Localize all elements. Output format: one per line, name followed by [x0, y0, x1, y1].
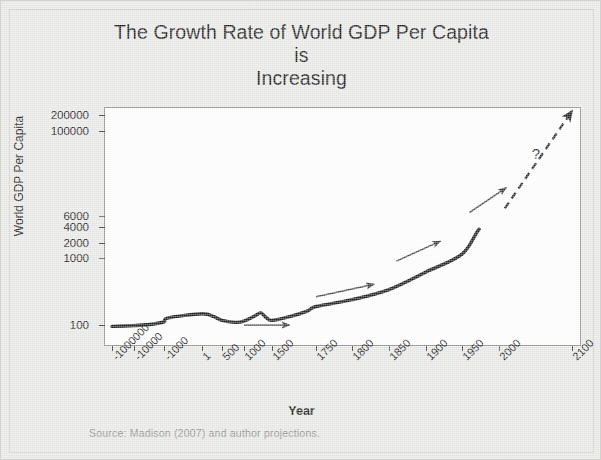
title-line-3: Increasing [1, 67, 601, 90]
slide-canvas: The Growth Rate of World GDP Per Capita … [0, 0, 601, 460]
series-main [112, 229, 479, 326]
page-title: The Growth Rate of World GDP Per Capita … [1, 21, 601, 90]
y-axis-tick-mark [99, 243, 105, 244]
title-line-1: The Growth Rate of World GDP Per Capita [1, 21, 601, 44]
y-axis-tick-label: 200000 [51, 110, 89, 121]
y-axis-tick-mark [99, 325, 105, 326]
y-axis-tick-mark [99, 216, 105, 217]
chart-svg [104, 107, 583, 348]
y-axis-tick-label: 1000 [63, 253, 89, 264]
plot-area: ? [104, 107, 581, 346]
gdp-per-capita-line-shadow [112, 229, 479, 326]
source-note: Source: Madison (2007) and author projec… [89, 427, 320, 439]
x-axis-tick-label: 1 [200, 350, 213, 363]
title-line-2: is [1, 44, 601, 67]
y-axis-label: World GDP Per Capita [12, 96, 26, 256]
y-axis-tick-label: 100000 [51, 126, 89, 137]
question-mark-annotation: ? [532, 145, 540, 162]
x-axis-ticks: -1000000-10000-1000150010001500175018001… [104, 346, 584, 404]
trend-arrows [244, 188, 506, 325]
y-axis-tick-mark [99, 227, 105, 228]
x-axis-label: Year [1, 404, 601, 418]
y-axis-tick-label: 2000 [63, 238, 89, 249]
y-axis-tick-mark [99, 131, 105, 132]
faster-growth-arrow [396, 241, 440, 261]
y-axis-tick-label: 100 [70, 320, 89, 331]
y-axis-tick-label: 4000 [63, 222, 89, 233]
gdp-per-capita-line [112, 229, 479, 326]
y-axis-tick-mark [99, 115, 105, 116]
y-axis-tick-mark [99, 258, 105, 259]
rapid-growth-arrow [469, 188, 506, 213]
